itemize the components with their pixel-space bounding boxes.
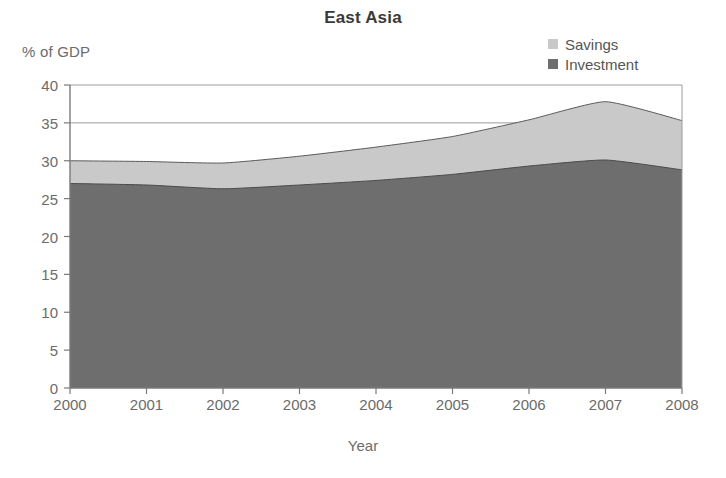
y-tick-label: 30: [18, 152, 58, 169]
x-tick-label: 2003: [265, 396, 335, 413]
savings-swatch-icon: [548, 39, 558, 49]
x-tick-label: 2006: [494, 396, 564, 413]
chart-title: East Asia: [0, 8, 726, 28]
x-axis-label: Year: [0, 437, 726, 454]
y-tick-label: 10: [18, 304, 58, 321]
investment-area: [70, 160, 682, 388]
y-tick-label: 25: [18, 190, 58, 207]
y-tick-label: 15: [18, 266, 58, 283]
chart-figure: East Asia % of GDP Savings Investment 05…: [0, 0, 726, 478]
x-tick-label: 2002: [188, 396, 258, 413]
y-tick-label: 5: [18, 342, 58, 359]
x-tick-label: 2004: [341, 396, 411, 413]
x-tick-label: 2005: [418, 396, 488, 413]
y-tick-label: 20: [18, 228, 58, 245]
y-tick-label: 40: [18, 77, 58, 94]
legend-item-investment: Investment: [548, 54, 698, 74]
investment-swatch-icon: [548, 59, 558, 69]
y-axis-label: % of GDP: [22, 43, 90, 60]
x-tick-label: 2008: [647, 396, 717, 413]
y-tick-label: 0: [18, 380, 58, 397]
legend-item-savings: Savings: [548, 34, 698, 54]
x-tick-label: 2001: [112, 396, 182, 413]
y-tick-label: 35: [18, 114, 58, 131]
legend-label-investment: Investment: [565, 56, 638, 73]
x-tick-label: 2000: [35, 396, 105, 413]
chart-legend: Savings Investment: [548, 34, 698, 74]
legend-label-savings: Savings: [565, 36, 618, 53]
x-tick-label: 2007: [571, 396, 641, 413]
